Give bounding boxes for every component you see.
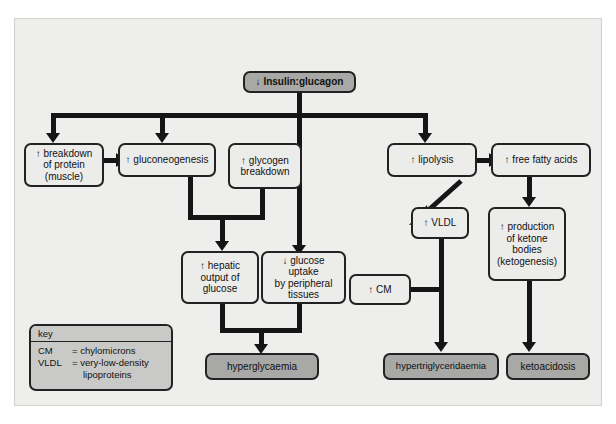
node-hyperglycaemia-label: hyperglycaemia [227,361,297,373]
legend-key-header: key [31,326,171,342]
legend-entry-cm-term: CM [38,345,72,357]
arrowhead-hepatic-output [215,241,229,251]
legend-entry-vldl-definition-cont: lipoproteins [38,369,166,381]
connector-ketones-to-ketoacidosis [527,281,532,344]
node-glycogen-breakdown-label: ↑ glycogen breakdown [241,155,290,178]
legend-entry-vldl-term: VLDL [38,357,72,369]
connector-drop-lipolysis [423,113,428,135]
node-glycogen-breakdown[interactable]: ↑ glycogen breakdown [228,143,302,189]
node-free-fatty-acids-label: ↑ free fatty acids [505,154,578,166]
diagram-canvas: ↓ Insulin:glucagon ↑ breakdown of protei… [14,18,602,406]
node-hepatic-output[interactable]: ↑ hepatic output of glucose [181,251,259,304]
node-glucose-uptake[interactable]: ↓ glucose uptake by peripheral tissues [261,251,346,304]
node-gluconeogenesis-label: ↑ gluconeogenesis [126,154,209,166]
connector-ffa-to-ketones [527,177,532,199]
node-ketone-bodies[interactable]: ↑ production of ketone bodies (ketogenes… [488,207,566,281]
node-free-fatty-acids[interactable]: ↑ free fatty acids [491,143,591,177]
legend-key-body: CM = chylomicrons VLDL = very-low-densit… [31,342,171,385]
node-glucose-uptake-label: ↓ glucose uptake by peripheral tissues [266,255,341,301]
connector-main-bus [51,113,428,118]
arrowhead-ketone-bodies [522,197,536,207]
arrowhead-lipolysis [418,133,432,143]
connector-hepatic-merge-bar [188,215,265,220]
node-hepatic-output-label: ↑ hepatic output of glucose [200,260,240,295]
node-protein-breakdown[interactable]: ↑ breakdown of protein (muscle) [24,143,104,187]
node-insulin-glucagon-label: ↓ Insulin:glucagon [256,76,344,88]
node-lipolysis[interactable]: ↑ lipolysis [387,143,477,177]
node-hyperglycaemia[interactable]: hyperglycaemia [205,353,319,380]
node-lipolysis-label: ↑ lipolysis [411,154,454,166]
legend-entry-vldl-definition: = very-low-density [72,357,166,369]
diagram-page: ↓ Insulin:glucagon ↑ breakdown of protei… [0,0,616,424]
node-hypertriglyceridaemia[interactable]: hypertriglyceridaemia [383,353,499,380]
node-gluconeogenesis[interactable]: ↑ gluconeogenesis [118,143,216,177]
arrowhead-protein [46,133,60,143]
node-ketone-bodies-label: ↑ production of ketone bodies (ketogenes… [497,221,557,267]
legend-entry-vldl: VLDL = very-low-density [38,357,166,369]
node-vldl-label: ↑ VLDL [424,217,457,229]
connector-hepatic-stem [220,215,225,243]
node-ketoacidosis[interactable]: ketoacidosis [506,353,590,380]
node-vldl[interactable]: ↑ VLDL [411,207,469,239]
node-ketoacidosis-label: ketoacidosis [520,361,575,373]
connector-gluconeogenesis-down [188,177,193,219]
legend-key: key CM = chylomicrons VLDL = very-low-de… [29,324,173,391]
node-cm-label: ↑ CM [368,284,391,296]
arrowhead-hypertriglyceridaemia [434,342,448,352]
node-insulin-glucagon[interactable]: ↓ Insulin:glucagon [243,71,356,93]
legend-entry-cm: CM = chylomicrons [38,345,166,357]
node-hypertriglyceridaemia-label: hypertriglyceridaemia [396,361,486,372]
connector-uptake-to-hyperglycaemia [297,304,302,332]
connector-cm-to-vldl-line [411,287,443,292]
arrowhead-ketoacidosis [522,342,536,352]
arrowhead-gluconeogenesis [155,133,169,143]
node-protein-breakdown-label: ↑ breakdown of protein (muscle) [36,148,93,183]
connector-insulin-stem [297,93,302,115]
connector-drop-protein [51,113,56,135]
node-cm[interactable]: ↑ CM [349,274,411,305]
legend-entry-cm-definition: = chylomicrons [72,345,166,357]
connector-drop-gluconeogenesis [160,113,165,135]
